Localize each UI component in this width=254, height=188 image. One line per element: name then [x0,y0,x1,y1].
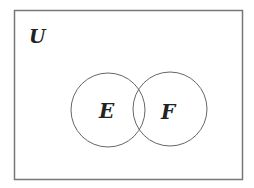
set-e-label: E [98,99,115,123]
set-f-label: F [160,100,177,124]
venn-diagram: U E F [0,0,254,188]
universe-rectangle [15,11,243,180]
universe-label: U [29,25,47,47]
